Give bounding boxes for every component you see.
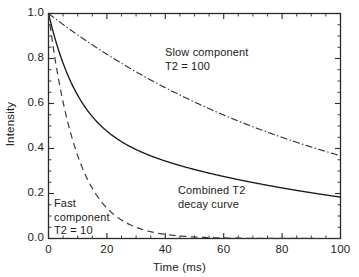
combined-curve-annotation-line: Combined T2 xyxy=(178,184,245,198)
slow-component-annotation: Slow componentT2 = 100 xyxy=(165,46,248,73)
combined-decay-curve xyxy=(49,14,341,198)
fast-component-annotation: FastcomponentT2 = 10 xyxy=(54,197,110,238)
slow-component-curve xyxy=(49,14,341,156)
x-tick-label: 100 xyxy=(321,243,359,255)
x-tick-label: 0 xyxy=(29,243,69,255)
t2-decay-chart-figure: 0.00.20.40.60.81.0 020406080100 Time (ms… xyxy=(0,0,359,277)
x-tick-label: 60 xyxy=(204,243,244,255)
fast-component-annotation-line: Fast xyxy=(54,197,110,211)
fast-component-annotation-line: component xyxy=(54,211,110,225)
y-tick-label: 0.8 xyxy=(8,51,44,63)
x-tick-label: 40 xyxy=(145,243,185,255)
y-tick-label: 0.0 xyxy=(8,231,44,243)
combined-curve-annotation-line: decay curve xyxy=(178,198,245,212)
y-tick-label: 1.0 xyxy=(8,6,44,18)
x-tick-label: 80 xyxy=(262,243,302,255)
y-axis-title: Intensity xyxy=(4,74,16,174)
x-axis-title: Time (ms) xyxy=(0,261,359,273)
slow-component-annotation-line: T2 = 100 xyxy=(165,60,248,74)
y-tick-label: 0.2 xyxy=(8,186,44,198)
combined-curve-annotation: Combined T2decay curve xyxy=(178,184,245,211)
x-tick-label: 20 xyxy=(87,243,127,255)
fast-component-annotation-line: T2 = 10 xyxy=(54,224,110,238)
slow-component-annotation-line: Slow component xyxy=(165,46,248,60)
